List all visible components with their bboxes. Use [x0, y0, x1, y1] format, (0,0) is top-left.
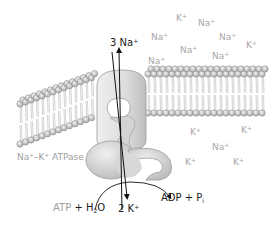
adp-text: ADP + P [161, 192, 202, 203]
k-count: 2 [118, 203, 124, 214]
extracellular-ion: Na+ [180, 45, 197, 55]
extracellular-ion: Na+ [212, 51, 229, 61]
extracellular-ion: K+ [176, 13, 187, 23]
lipid-tails-right [148, 76, 264, 110]
intracellular-ion: K+ [190, 127, 201, 137]
na-out-label: 3 Na+ [110, 38, 138, 48]
intracellular-ion: K+ [241, 125, 252, 135]
intracellular-ion: K+ [185, 157, 196, 167]
extracellular-ion: Na+ [198, 18, 215, 28]
pi-sub: i [202, 197, 204, 204]
na-count: 3 [110, 37, 116, 48]
na-charge: + [133, 37, 138, 44]
adp-pi-label: ADP + Pi [161, 193, 204, 204]
atp-h2o-label: ATP + H2O [53, 203, 105, 214]
na-symbol: Na [120, 37, 134, 48]
intracellular-ion: Na+ [212, 142, 229, 152]
k-in-label: 2 K+ [118, 204, 139, 214]
extracellular-ion: Na+ [219, 32, 236, 42]
water-o: O [97, 202, 105, 213]
extracellular-ion: K+ [246, 40, 257, 50]
intracellular-ion: K+ [233, 157, 244, 167]
sodium-potassium-pump-diagram: 3 Na+ Na⁺–K⁺ ATPase ATP + H2O 2 K+ ADP +… [0, 0, 276, 230]
atp-text: ATP [53, 202, 71, 213]
extracellular-ion: Na+ [151, 32, 168, 42]
water-h: H [86, 202, 94, 213]
k-charge: + [134, 203, 139, 210]
extracellular-ion: Na+ [148, 56, 165, 66]
plus-sign: + [74, 202, 82, 213]
enzyme-label: Na⁺–K⁺ ATPase [17, 153, 84, 162]
